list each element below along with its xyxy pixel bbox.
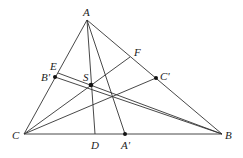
point-s	[89, 83, 94, 88]
median-aa-prime	[87, 20, 125, 134]
label-c-prime: C'	[160, 70, 170, 82]
geometry-diagram: A B C D A' E B' F C' S	[0, 0, 243, 158]
point-a-prime	[123, 132, 127, 136]
label-a: A	[82, 6, 90, 18]
label-s: S	[83, 71, 89, 83]
label-d: D	[90, 139, 99, 151]
label-e: E	[49, 60, 57, 72]
label-b: B	[225, 129, 232, 141]
point-b-prime	[53, 75, 57, 79]
label-b-prime: B'	[41, 71, 51, 83]
label-c: C	[12, 129, 20, 141]
labels: A B C D A' E B' F C' S	[12, 6, 232, 151]
label-a-prime: A'	[120, 139, 131, 151]
label-f: F	[133, 46, 141, 58]
point-c-prime	[154, 76, 158, 80]
